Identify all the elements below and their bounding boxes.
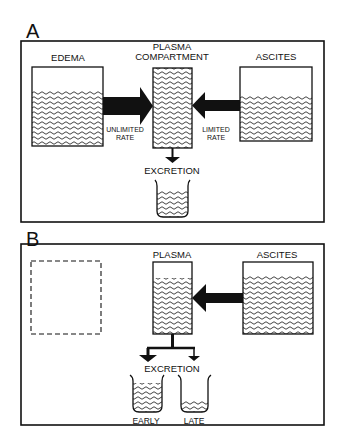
empty-edema-compartment	[31, 261, 101, 334]
early-beaker	[130, 375, 164, 412]
ascites-compartment-b	[243, 262, 313, 334]
late-beaker	[178, 375, 211, 412]
edema-compartment	[32, 67, 103, 146]
limited-rate-arrow	[192, 92, 240, 119]
plasma-compartment-label-line2: COMPARTMENT	[135, 51, 209, 62]
ascites-compartment	[240, 67, 312, 141]
limited-label-line1: LIMITED	[202, 126, 230, 133]
plasma-compartment	[153, 68, 192, 148]
edema-label: EDEMA	[51, 52, 85, 63]
excretion-beaker	[155, 180, 190, 217]
panel-b: B PLASMA ASCITES EXCRETI	[21, 228, 324, 426]
plasma-label: PLASMA	[153, 249, 192, 260]
panel-a-letter: A	[26, 20, 40, 42]
excretion-label-b: EXCRETION	[144, 363, 200, 374]
excretion-arrow	[165, 148, 180, 163]
ascites-to-plasma-arrow	[192, 284, 243, 312]
excretion-branch-arrows	[139, 334, 200, 362]
late-label: LATE	[184, 416, 205, 426]
panel-a: A EDEMA UNLIMITED RATE PLASMA COMPARTMEN…	[21, 20, 324, 222]
limited-label-line2: RATE	[207, 134, 225, 141]
diagram-canvas: A EDEMA UNLIMITED RATE PLASMA COMPARTMEN…	[0, 0, 339, 440]
ascites-label: ASCITES	[256, 51, 297, 62]
early-label: EARLY	[132, 416, 160, 426]
ascites-label-b: ASCITES	[257, 249, 298, 260]
excretion-label: EXCRETION	[144, 165, 200, 176]
unlimited-label-line2: RATE	[116, 134, 134, 141]
panel-b-letter: B	[26, 228, 39, 250]
unlimited-label-line1: UNLIMITED	[106, 126, 144, 133]
unlimited-rate-arrow	[103, 87, 153, 125]
plasma-compartment-b	[153, 262, 192, 334]
